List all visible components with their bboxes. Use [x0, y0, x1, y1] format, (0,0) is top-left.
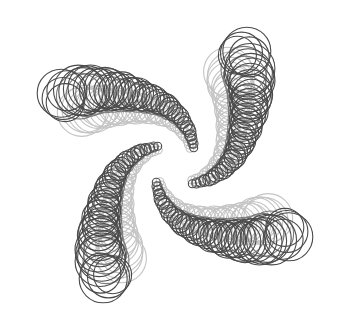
background: [0, 0, 351, 329]
circle-pinwheel-artwork: [0, 0, 351, 329]
